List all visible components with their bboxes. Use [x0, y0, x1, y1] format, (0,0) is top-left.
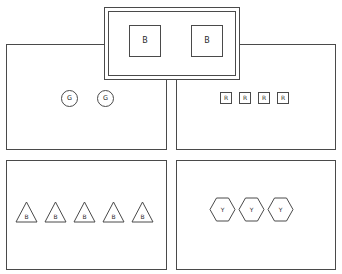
triangle-shape[interactable]: B	[73, 201, 96, 223]
circle-label: G	[67, 95, 72, 102]
square-group: R R R R	[220, 92, 289, 104]
triangle-label: B	[102, 214, 125, 220]
hexagon-label: Y	[267, 207, 294, 213]
triangle-shape[interactable]: B	[131, 201, 154, 223]
hexagon-shape[interactable]: Y	[209, 197, 236, 222]
circle-shape[interactable]: G	[61, 90, 78, 107]
square-label: R	[281, 95, 285, 101]
overlay-panel[interactable]: B B	[104, 7, 240, 80]
square-shape[interactable]: B	[191, 25, 223, 57]
hexagon-label: Y	[209, 207, 236, 213]
diagram-canvas: G G R R R R	[0, 0, 342, 274]
triangle-label: B	[131, 214, 154, 220]
overlay-square-group: B B	[129, 25, 223, 57]
hexagon-label: Y	[238, 207, 265, 213]
square-shape[interactable]: B	[129, 25, 161, 57]
triangle-label: B	[15, 214, 38, 220]
bottom-left-panel[interactable]: B B B B	[6, 160, 167, 270]
square-label: R	[262, 95, 266, 101]
square-shape[interactable]: R	[239, 92, 251, 104]
triangle-shape[interactable]: B	[15, 201, 38, 223]
hexagon-group: Y Y Y	[209, 197, 294, 222]
square-label: B	[204, 37, 210, 45]
square-label: R	[224, 95, 228, 101]
square-label: R	[243, 95, 247, 101]
square-label: B	[142, 37, 148, 45]
triangle-shape[interactable]: B	[102, 201, 125, 223]
square-shape[interactable]: R	[220, 92, 232, 104]
triangle-shape[interactable]: B	[44, 201, 67, 223]
triangle-group: B B B B	[15, 201, 154, 223]
triangle-label: B	[73, 214, 96, 220]
square-shape[interactable]: R	[277, 92, 289, 104]
triangle-label: B	[44, 214, 67, 220]
bottom-right-panel[interactable]: Y Y Y	[176, 160, 336, 270]
hexagon-shape[interactable]: Y	[267, 197, 294, 222]
circle-label: G	[103, 95, 108, 102]
hexagon-shape[interactable]: Y	[238, 197, 265, 222]
circle-group: G G	[61, 90, 114, 107]
square-shape[interactable]: R	[258, 92, 270, 104]
circle-shape[interactable]: G	[97, 90, 114, 107]
